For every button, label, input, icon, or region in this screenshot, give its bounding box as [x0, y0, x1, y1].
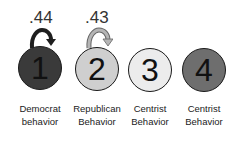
label-line: Democrat [10, 103, 70, 116]
label-line: Behavior [174, 116, 234, 129]
label-line: Centrist [120, 103, 180, 116]
state-number: 2 [88, 53, 106, 85]
self-loop-value-2: .43 [85, 8, 109, 28]
self-loop-value-1: .44 [29, 8, 53, 28]
state-node-3: 3 [128, 48, 172, 92]
state-number: 1 [31, 52, 49, 84]
state-label-3: Centrist Behavior [120, 103, 180, 128]
state-label-4: Centrist Behavior [174, 103, 234, 128]
label-line: Behavior [67, 116, 127, 129]
state-label-2: Republican Behavior [67, 103, 127, 128]
label-line: behavior [10, 116, 70, 129]
self-loop-arrow-icon [83, 27, 113, 49]
state-node-4: 4 [182, 48, 226, 92]
label-line: Behavior [120, 116, 180, 129]
label-line: Centrist [174, 103, 234, 116]
state-number: 3 [141, 54, 159, 86]
state-node-1: 1 [18, 46, 62, 90]
state-node-2: 2 [75, 47, 119, 91]
state-number: 4 [195, 54, 213, 86]
state-label-1: Democrat behavior [10, 103, 70, 128]
label-line: Republican [67, 103, 127, 116]
